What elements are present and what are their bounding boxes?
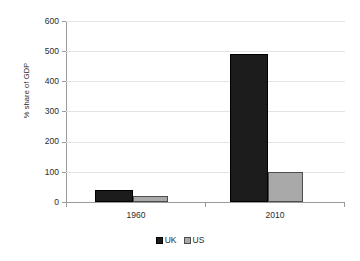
x-tick-mark-end: [344, 203, 345, 207]
y-tick-label-100: 100: [19, 168, 59, 177]
gridline-300: [66, 111, 345, 112]
y-tick-label-400: 400: [19, 77, 59, 86]
legend-entry-uk[interactable]: UK: [156, 236, 177, 245]
gridline-400: [66, 81, 345, 82]
legend-label-uk: UK: [165, 236, 177, 245]
legend-swatch-icon-uk: [156, 237, 163, 244]
gridline-200: [66, 142, 345, 143]
x-tick-mark-middle: [205, 203, 206, 207]
y-tick-label-500: 500: [19, 47, 59, 56]
x-tick-label-1960: 1960: [96, 210, 176, 220]
y-tick-label-0: 0: [19, 198, 59, 207]
legend-swatch-icon-us: [184, 237, 191, 244]
plot-area: [66, 21, 345, 202]
gridline-600: [66, 21, 345, 22]
gridline-100: [66, 172, 345, 173]
chart-legend: UK US: [0, 236, 360, 245]
x-tick-label-2010: 2010: [235, 210, 315, 220]
y-tick-label-600: 600: [19, 17, 59, 26]
y-tick-label-300: 300: [19, 107, 59, 116]
legend-label-us: US: [193, 236, 205, 245]
bar-uk-1960[interactable]: [95, 190, 133, 202]
bar-chart: % share of GDP 600 500 400 300 200 100 0…: [0, 0, 360, 261]
y-tick-label-200: 200: [19, 137, 59, 146]
gridline-500: [66, 51, 345, 52]
bar-uk-2010[interactable]: [230, 54, 268, 202]
x-tick-mark-start: [66, 203, 67, 207]
bar-us-2010[interactable]: [268, 172, 303, 202]
legend-entry-us[interactable]: US: [184, 236, 205, 245]
